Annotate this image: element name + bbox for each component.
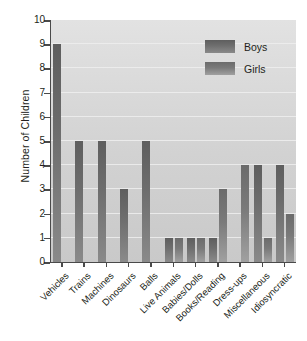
bar-girls-idiosyncratic [286, 214, 294, 262]
bar-girls-dress-ups [241, 165, 249, 262]
gridline [51, 116, 296, 117]
x-tick-mark [83, 262, 85, 267]
y-tick-label: 0 [21, 256, 45, 267]
bar-boys-idiosyncratic [276, 165, 284, 262]
y-tick-label: 2 [21, 208, 45, 219]
bar-girls-miscellaneous [264, 238, 272, 262]
y-tick-label: 5 [21, 135, 45, 146]
x-tick-mark [217, 262, 219, 267]
gridline [51, 92, 296, 93]
bar-boys-machines [98, 141, 106, 262]
x-tick-mark [106, 262, 108, 267]
y-tick-label: 4 [21, 159, 45, 170]
x-tick-mark [173, 262, 175, 267]
bar-girls-live-animals [175, 238, 183, 262]
legend-label-girls: Girls [244, 63, 266, 75]
legend-item-boys: Boys [205, 40, 267, 53]
chart-legend: Boys Girls [205, 40, 267, 84]
x-tick-mark [61, 262, 63, 267]
gridline [51, 140, 296, 141]
x-tick-mark [150, 262, 152, 267]
y-tick-label: 8 [21, 62, 45, 73]
y-tick-label: 1 [21, 232, 45, 243]
bar-girls-books-reading [219, 189, 227, 262]
bar-girls-babies-dolls [197, 238, 205, 262]
bar-boys-vehicles [53, 44, 61, 262]
x-tick-mark [128, 262, 130, 267]
y-tick-label: 3 [21, 183, 45, 194]
legend-item-girls: Girls [205, 62, 267, 75]
bar-boys-trains [75, 141, 83, 262]
bar-boys-miscellaneous [254, 165, 262, 262]
bar-boys-live-animals [165, 238, 173, 262]
y-tick-label: 7 [21, 87, 45, 98]
bar-boys-books-reading [209, 238, 217, 262]
x-tick-mark [262, 262, 264, 267]
x-tick-mark [284, 262, 286, 267]
bar-boys-dinosaurs [120, 189, 128, 262]
legend-swatch-girls [205, 62, 235, 75]
legend-label-boys: Boys [244, 41, 267, 53]
x-tick-mark [195, 262, 197, 267]
y-tick-label: 9 [21, 38, 45, 49]
legend-swatch-boys [205, 40, 235, 53]
bar-boys-babies-dolls [187, 238, 195, 262]
bar-boys-balls [142, 141, 150, 262]
bar-chart-figure: Number of Children 012345678910 Vehicles… [0, 0, 307, 341]
y-tick-label: 6 [21, 111, 45, 122]
x-tick-mark [239, 262, 241, 267]
y-tick-label: 10 [21, 14, 45, 25]
